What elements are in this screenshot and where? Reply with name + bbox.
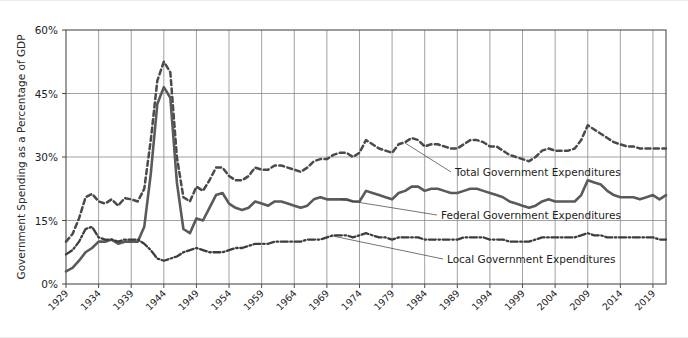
x-tick-label: 1979: [372, 288, 397, 313]
x-tick-label: 1989: [437, 288, 462, 313]
chart-figure: 0%15%30%45%60% 1929193419391944194919541…: [0, 0, 688, 338]
x-tick-label: 1929: [46, 288, 71, 313]
x-tick-label: 1994: [469, 288, 494, 313]
y-axis-title: Government Spending as a Percentage of G…: [15, 35, 27, 280]
y-tick-label: 30%: [35, 151, 58, 163]
x-tick-label: 1984: [404, 288, 429, 313]
x-tick-label: 1964: [274, 288, 299, 313]
x-tick-label: 2009: [567, 288, 592, 313]
x-tick-label: 2019: [632, 288, 657, 313]
y-axis-ticks: 0%15%30%45%60%: [35, 24, 66, 290]
x-tick-label: 1949: [176, 288, 201, 313]
x-tick-label: 2014: [600, 288, 625, 313]
annotation-label: Total Government Expenditures: [454, 166, 621, 178]
x-tick-label: 1999: [502, 288, 527, 313]
annotation-label: Local Government Expenditures: [447, 253, 615, 265]
y-tick-label: 15%: [35, 215, 58, 227]
y-tick-label: 45%: [35, 88, 58, 100]
x-tick-label: 1974: [339, 288, 364, 313]
x-tick-label: 1954: [209, 288, 234, 313]
y-tick-label: 60%: [35, 24, 58, 36]
y-tick-label: 0%: [41, 278, 58, 290]
x-tick-label: 1934: [78, 288, 103, 313]
government-spending-line-chart: 0%15%30%45%60% 1929193419391944194919541…: [0, 1, 688, 338]
x-tick-label: 1959: [241, 288, 266, 313]
x-axis-ticks: 1929193419391944194919541959196419691974…: [46, 284, 658, 313]
series-annotations: Total Government ExpendituresFederal Gov…: [333, 143, 620, 265]
x-tick-label: 2004: [535, 288, 560, 313]
x-tick-label: 1939: [111, 288, 136, 313]
x-tick-label: 1969: [306, 288, 331, 313]
x-tick-label: 1944: [143, 288, 168, 313]
series-line-solid: [66, 87, 666, 271]
annotation-label: Federal Government Expenditures: [441, 209, 621, 221]
gridlines: [66, 30, 666, 284]
